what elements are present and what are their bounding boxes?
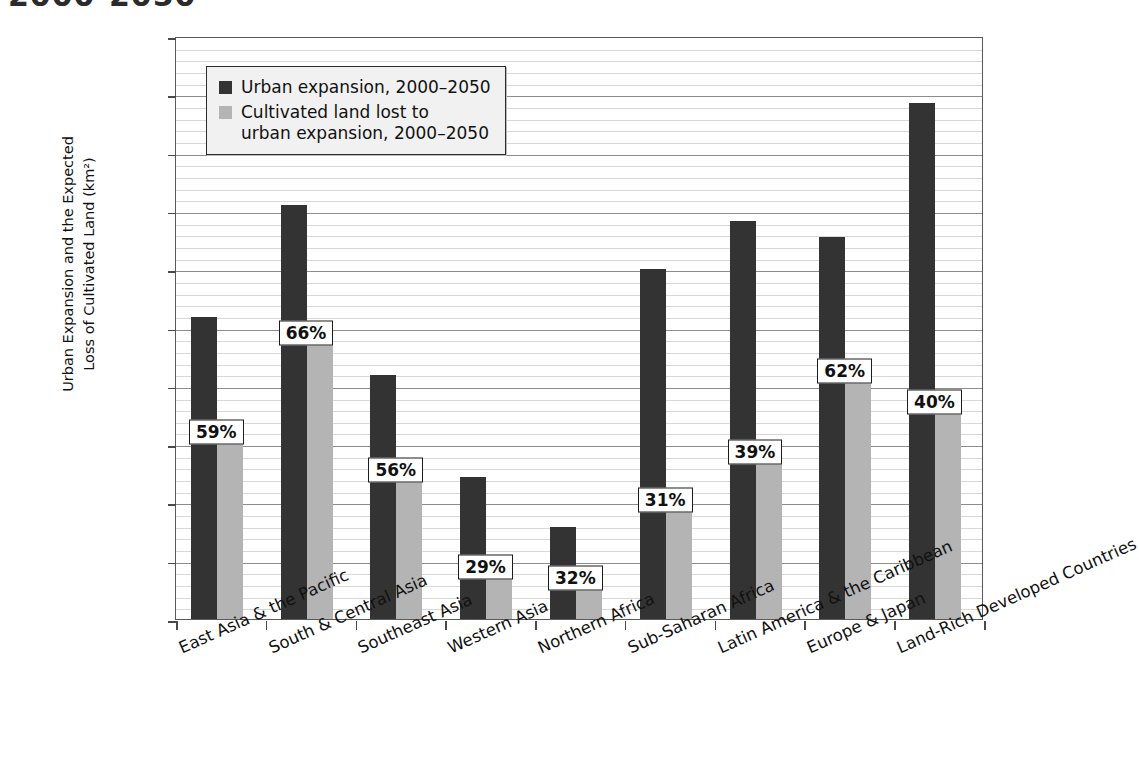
page-title: 2000-2050 <box>8 0 196 10</box>
chart-plot-area: 050,000100,000150,000200,000250,000300,0… <box>175 37 983 620</box>
y-axis-tick-mark <box>168 38 176 40</box>
x-axis-tick-mark <box>356 621 358 630</box>
bar-cultivated-land-lost <box>217 443 243 619</box>
y-axis-tick-mark <box>168 621 176 623</box>
bar-urban-expansion <box>819 237 845 619</box>
legend-swatch-cultivated-land-lost <box>219 106 232 119</box>
x-axis-tick-mark <box>535 621 537 630</box>
gridline-minor <box>176 190 982 191</box>
y-axis-tick-mark <box>168 388 176 390</box>
x-axis-tick-mark <box>625 621 627 630</box>
legend-label-urban-expansion: Urban expansion, 2000–2050 <box>241 77 491 98</box>
percentage-label: 59% <box>189 419 244 444</box>
gridline-minor <box>176 178 982 179</box>
percentage-label: 56% <box>368 458 423 483</box>
x-axis-tick-mark <box>894 621 896 630</box>
percentage-label: 40% <box>907 389 962 414</box>
percentage-label: 66% <box>279 320 334 345</box>
legend-swatch-urban-expansion <box>219 81 232 94</box>
x-axis-tick-mark <box>176 621 178 630</box>
y-axis-tick-mark <box>168 563 176 565</box>
bar-urban-expansion <box>191 317 217 619</box>
chart-legend: Urban expansion, 2000–2050 Cultivated la… <box>206 66 506 155</box>
percentage-label: 32% <box>548 565 603 590</box>
y-axis-tick-mark <box>168 155 176 157</box>
cropped-title-strip: 2000-2050 <box>0 0 1008 10</box>
gridline-minor <box>176 166 982 167</box>
x-axis-tick-mark <box>445 621 447 630</box>
x-axis-tick-mark <box>984 621 986 630</box>
x-axis-tick-mark <box>715 621 717 630</box>
bar-cultivated-land-lost <box>666 511 692 619</box>
y-axis-tick-mark <box>168 96 176 98</box>
percentage-label: 29% <box>458 555 513 580</box>
bar-urban-expansion <box>730 221 756 619</box>
gridline-minor <box>176 201 982 202</box>
x-axis-tick-mark <box>804 621 806 630</box>
percentage-label: 39% <box>728 439 783 464</box>
bar-urban-expansion <box>281 205 307 619</box>
bar-urban-expansion <box>640 269 666 619</box>
percentage-label: 31% <box>638 487 693 512</box>
x-axis-tick-mark <box>266 621 268 630</box>
gridline-minor <box>176 50 982 51</box>
y-axis-title: Urban Expansion and the Expected Loss of… <box>58 54 100 474</box>
y-axis-tick-mark <box>168 271 176 273</box>
percentage-label: 62% <box>817 359 872 384</box>
bar-urban-expansion <box>909 103 935 620</box>
gridline-minor <box>176 61 982 62</box>
y-axis-tick-mark <box>168 330 176 332</box>
y-axis-tick-mark <box>168 446 176 448</box>
y-axis-tick-mark <box>168 504 176 506</box>
legend-item: Cultivated land lost to urban expansion,… <box>219 102 491 144</box>
bar-cultivated-land-lost <box>935 413 961 619</box>
legend-item: Urban expansion, 2000–2050 <box>219 77 491 98</box>
legend-label-cultivated-land-lost: Cultivated land lost to urban expansion,… <box>241 102 489 144</box>
y-axis-tick-mark <box>168 213 176 215</box>
